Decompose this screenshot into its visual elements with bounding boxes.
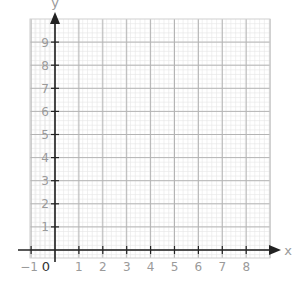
y-tick-label: 1: [41, 220, 49, 234]
x-tick-label: 7: [218, 260, 226, 274]
y-tick-label: 5: [41, 128, 49, 142]
y-tick-label: 9: [41, 36, 49, 50]
x-tick-label: 3: [123, 260, 131, 274]
x-axis-arrow-icon: [269, 245, 281, 255]
x-tick-label: −1: [20, 260, 38, 274]
x-axis-label: x: [284, 243, 292, 258]
x-tick-label: 5: [171, 260, 179, 274]
y-axis-arrow-icon: [50, 12, 60, 24]
y-tick-label: 6: [41, 105, 49, 119]
y-tick-label: 7: [41, 82, 49, 96]
x-tick-label: 6: [195, 260, 203, 274]
x-tick-label: 2: [99, 260, 107, 274]
origin-label: 0: [42, 259, 50, 274]
coordinate-plane: −112345678123456789 x y 0: [0, 0, 300, 288]
y-tick-label: 4: [41, 151, 49, 165]
x-tick-label: 8: [242, 260, 250, 274]
y-tick-label: 8: [41, 59, 49, 73]
y-tick-label: 2: [41, 197, 49, 211]
y-tick-label: 3: [41, 174, 49, 188]
x-tick-label: 1: [75, 260, 83, 274]
x-tick-label: 4: [147, 260, 155, 274]
y-axis-label: y: [51, 0, 59, 10]
